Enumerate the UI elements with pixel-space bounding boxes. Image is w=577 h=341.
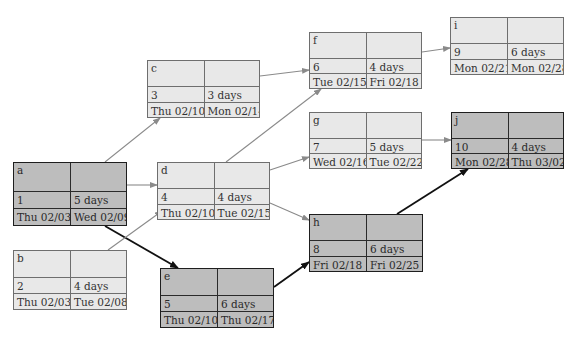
task-finish-date: Thu 02/17: [217, 311, 273, 327]
task-duration: 4 days: [214, 188, 270, 204]
task-finish-date: Tue 02/08: [70, 293, 126, 309]
task-start-date: Thu 02/03: [14, 293, 70, 309]
task-number: 1: [14, 191, 70, 208]
task-name-extra: [366, 33, 422, 58]
task-number: 5: [161, 295, 217, 311]
task-start-date: Wed 02/16: [310, 153, 366, 168]
task-name-extra: [214, 163, 270, 188]
task-finish-date: Mon 02/14: [204, 102, 260, 117]
task-finish-date: Tue 02/15: [214, 204, 270, 219]
task-number: 9: [451, 43, 507, 59]
task-start-date: Thu 02/10: [158, 204, 214, 219]
task-name: f: [310, 33, 366, 58]
task-node-d[interactable]: d44 daysThu 02/10Tue 02/15: [157, 162, 270, 220]
task-node-j[interactable]: j104 daysMon 02/28Thu 03/02: [451, 112, 564, 169]
task-number: 4: [158, 188, 214, 204]
task-start-date: Tue 02/15: [310, 73, 366, 88]
task-start-date: Thu 02/03: [14, 208, 70, 225]
task-name: c: [148, 61, 204, 86]
task-duration: 4 days: [70, 277, 126, 293]
arrow-h-to-j: [397, 169, 468, 214]
task-number: 8: [310, 240, 366, 256]
task-name-extra: [70, 163, 126, 191]
task-node-a[interactable]: a15 daysThu 02/03Wed 02/09: [13, 162, 127, 226]
task-name: i: [451, 18, 507, 43]
task-name: a: [14, 163, 70, 191]
task-duration: 5 days: [366, 138, 422, 153]
task-node-g[interactable]: g75 daysWed 02/16Tue 02/22: [309, 112, 422, 169]
task-duration: 3 days: [204, 86, 260, 102]
task-node-e[interactable]: e56 daysThu 02/10Thu 02/17: [160, 268, 274, 328]
task-name-extra: [217, 269, 273, 295]
task-node-i[interactable]: i96 daysMon 02/21Mon 02/28: [450, 17, 564, 75]
task-start-date: Mon 02/28: [452, 153, 508, 168]
task-name-extra: [70, 251, 126, 277]
task-node-f[interactable]: f64 daysTue 02/15Fri 02/18: [309, 32, 422, 89]
task-duration: 5 days: [70, 191, 126, 208]
arrow-d-to-h: [270, 203, 309, 220]
task-number: 3: [148, 86, 204, 102]
task-name-extra: [204, 61, 260, 86]
task-name: d: [158, 163, 214, 188]
task-number: 2: [14, 277, 70, 293]
task-finish-date: Thu 03/02: [508, 153, 564, 168]
task-number: 10: [452, 138, 508, 153]
task-finish-date: Mon 02/28: [507, 59, 563, 74]
task-duration: 6 days: [366, 240, 422, 256]
arrow-a-to-c: [105, 118, 160, 162]
task-node-b[interactable]: b24 daysThu 02/03Tue 02/08: [13, 250, 127, 310]
task-node-h[interactable]: h86 daysFri 02/18Fri 02/25: [309, 214, 423, 272]
task-name-extra: [508, 113, 564, 138]
arrow-e-to-h: [274, 262, 309, 287]
task-number: 7: [310, 138, 366, 153]
task-name-extra: [366, 215, 422, 240]
arrow-d-to-g: [270, 157, 309, 170]
task-name-extra: [366, 113, 422, 138]
task-duration: 6 days: [217, 295, 273, 311]
task-name: h: [310, 215, 366, 240]
task-node-c[interactable]: c33 daysThu 02/10Mon 02/14: [147, 60, 260, 118]
task-name: j: [452, 113, 508, 138]
task-start-date: Mon 02/21: [451, 59, 507, 74]
arrow-c-to-f: [260, 70, 309, 76]
task-finish-date: Wed 02/09: [70, 208, 126, 225]
task-finish-date: Fri 02/25: [366, 256, 422, 271]
task-start-date: Thu 02/10: [161, 311, 217, 327]
task-name: b: [14, 251, 70, 277]
task-name: e: [161, 269, 217, 295]
task-duration: 4 days: [366, 58, 422, 73]
task-finish-date: Tue 02/22: [366, 153, 422, 168]
task-duration: 4 days: [508, 138, 564, 153]
task-name-extra: [507, 18, 563, 43]
task-finish-date: Fri 02/18: [366, 73, 422, 88]
task-duration: 6 days: [507, 43, 563, 59]
task-name: g: [310, 113, 366, 138]
task-start-date: Thu 02/10: [148, 102, 204, 117]
arrow-f-to-i: [422, 48, 450, 52]
task-number: 6: [310, 58, 366, 73]
task-start-date: Fri 02/18: [310, 256, 366, 271]
